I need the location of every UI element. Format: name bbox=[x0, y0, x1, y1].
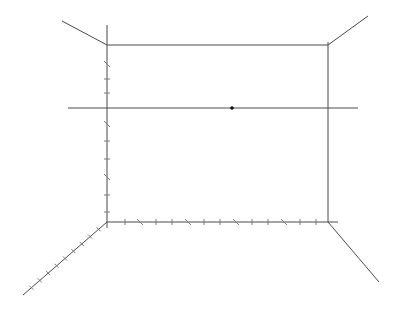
orthogonal-top-right bbox=[328, 16, 368, 45]
vanishing-point-icon bbox=[230, 106, 234, 110]
grid-ticks bbox=[29, 61, 316, 290]
perspective-grid-canvas bbox=[0, 0, 403, 313]
grid-lines bbox=[23, 16, 379, 295]
orthogonal-bottom-right bbox=[328, 222, 379, 282]
orthogonal-top-left bbox=[62, 21, 107, 45]
